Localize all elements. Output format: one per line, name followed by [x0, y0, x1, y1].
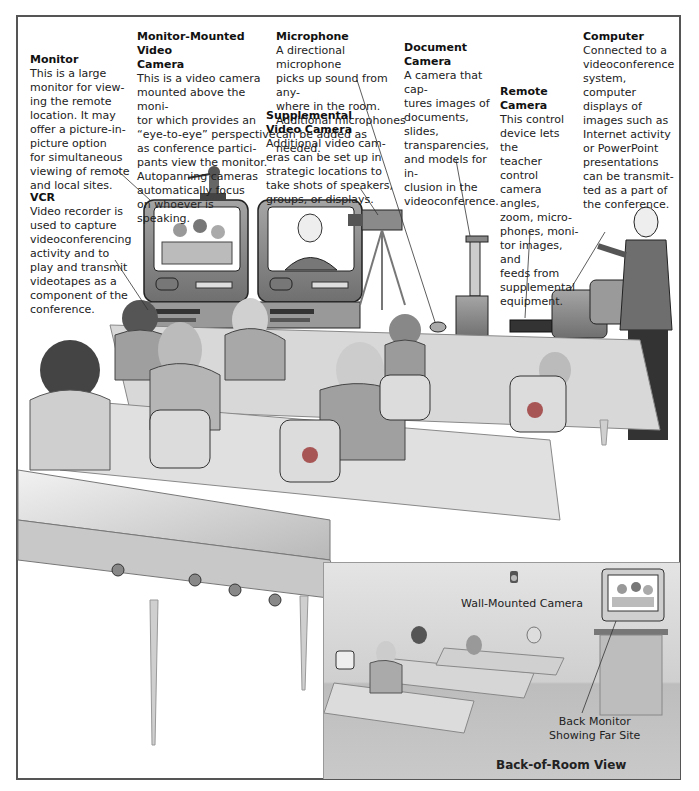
- callout-document-camera-title: Document Camera: [404, 41, 504, 69]
- callout-vcr-body: Video recorder is used to capture videoc…: [30, 205, 140, 317]
- callout-microphone-title: Microphone: [276, 30, 406, 44]
- remote-control-device: [510, 320, 552, 332]
- callout-monitor-body: This is a large monitor for view- ing th…: [30, 67, 140, 193]
- callout-monitor-mounted-camera-title: Monitor-Mounted Video Camera: [137, 30, 277, 72]
- callout-remote-camera-body: This control device lets the teacher con…: [500, 113, 580, 309]
- back-monitor: [594, 569, 668, 715]
- callout-computer: Computer Connected to a videoconference …: [583, 30, 681, 212]
- callout-monitor-title: Monitor: [30, 53, 140, 67]
- back-of-room-view-title: Back-of-Room View: [496, 758, 626, 772]
- callout-remote-camera: Remote Camera This control device lets t…: [500, 85, 580, 309]
- callout-monitor: Monitor This is a large monitor for view…: [30, 53, 140, 193]
- callout-monitor-mounted-camera: Monitor-Mounted Video Camera This is a v…: [137, 30, 277, 226]
- document-camera: [456, 236, 488, 338]
- callout-vcr-title: VCR: [30, 191, 140, 205]
- back-of-room-illustration: [324, 563, 680, 779]
- back-of-room-inset: Wall-Mounted Camera Back Monitor Showing…: [323, 562, 680, 779]
- microphone-device: [430, 322, 446, 332]
- callout-document-camera-body: A camera that cap- tures images of docum…: [404, 69, 504, 209]
- callout-remote-camera-title: Remote Camera: [500, 85, 580, 113]
- callout-supplemental-camera-title: Supplemental Video Camera: [266, 109, 396, 137]
- callout-computer-body: Connected to a videoconference system, c…: [583, 44, 681, 212]
- wall-mounted-camera-label: Wall-Mounted Camera: [461, 597, 583, 611]
- callout-monitor-mounted-camera-body: This is a video camera mounted above the…: [137, 72, 277, 226]
- callout-vcr: VCR Video recorder is used to capture vi…: [30, 191, 140, 317]
- callout-supplemental-camera: Supplemental Video Camera Additional vid…: [266, 109, 396, 207]
- callout-computer-title: Computer: [583, 30, 681, 44]
- back-monitor-label: Back Monitor Showing Far Site: [549, 715, 640, 743]
- callout-document-camera: Document Camera A camera that cap- tures…: [404, 41, 504, 209]
- callout-supplemental-camera-body: Additional video cam- eras can be set up…: [266, 137, 396, 207]
